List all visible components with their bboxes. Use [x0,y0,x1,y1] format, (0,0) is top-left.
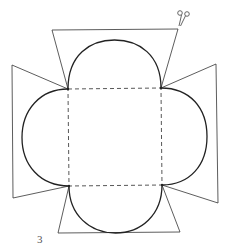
cutout-net-diagram: 3 [0,0,225,252]
right-arc [161,88,207,185]
fold-square [68,88,162,186]
vertex-dots [67,87,163,187]
trapezoid-tabs [12,29,218,233]
scissors-icon [178,11,190,26]
top-arc [68,40,161,89]
semicircle-flaps [22,40,207,233]
top-tab [52,29,178,89]
right-tab [161,64,218,203]
left-arc [22,89,69,186]
bottom-arc [69,185,162,233]
page-number: 3 [37,233,43,245]
